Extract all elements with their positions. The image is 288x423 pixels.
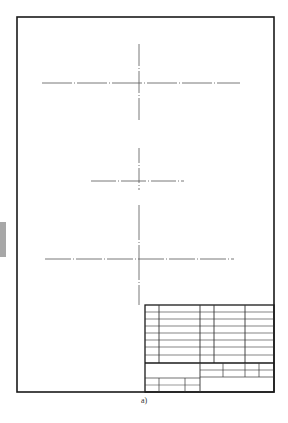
- technical-drawing: [0, 0, 288, 423]
- centerline-cross-2: [91, 148, 184, 190]
- centerline-cross-1: [42, 44, 240, 122]
- centerline-cross-3: [45, 205, 234, 305]
- figure-caption: a): [0, 396, 288, 405]
- title-block: [145, 305, 274, 392]
- drawing-sheet: a): [0, 0, 288, 423]
